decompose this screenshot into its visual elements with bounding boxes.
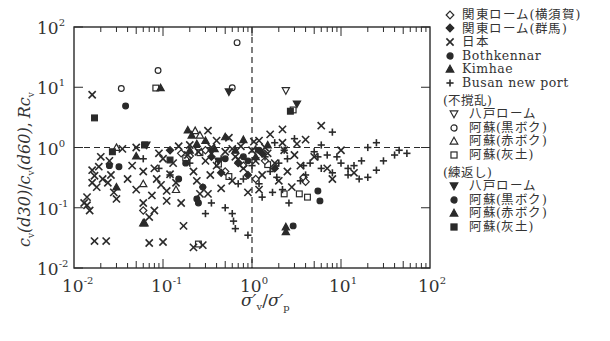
diamond-filled-marker-icon (443, 22, 457, 34)
data-point-x (329, 175, 336, 182)
legend-marker (450, 137, 458, 144)
legend-marker (451, 125, 457, 131)
data-point-x (107, 171, 114, 178)
data-point-plus (199, 184, 206, 191)
square-open-marker-icon (447, 149, 461, 161)
data-point-diamond-open (140, 207, 147, 214)
legend-marker (446, 11, 454, 19)
y-tick-label: 10-1 (37, 198, 68, 219)
legend-item: 八戸ローム (443, 107, 581, 121)
legend-item: 阿蘇(灰土) (443, 220, 581, 234)
data-point-square-filled (92, 115, 98, 121)
data-point-x (222, 148, 229, 155)
data-point-x (267, 131, 274, 138)
data-point-x (291, 151, 298, 158)
data-point-square-filled (288, 108, 294, 114)
data-point-plus (208, 199, 215, 206)
data-point-triangle-filled (240, 136, 247, 142)
data-point-x (140, 168, 147, 175)
data-point-circle-filled (245, 158, 251, 164)
data-point-plus (373, 167, 380, 174)
data-point-circle-filled (123, 103, 129, 109)
data-point-plus (285, 199, 292, 206)
data-point-plus (373, 139, 380, 146)
legend-label: Kimhae (462, 62, 513, 76)
data-point-plus (271, 139, 278, 146)
reference-lines (74, 27, 430, 268)
data-point-circle-filled (315, 188, 321, 194)
data-point-circle-filled (317, 198, 323, 204)
legend-label: 日本 (462, 35, 489, 49)
legend-item: 阿蘇(赤ボク) (443, 206, 581, 220)
data-point-plus (324, 151, 331, 158)
data-point-plus (140, 155, 147, 162)
triangle-down-open-marker-icon (447, 108, 461, 120)
legend-remolded-title: (練返し) (443, 166, 581, 180)
data-point-x (279, 139, 286, 146)
data-point-plus (403, 150, 410, 157)
data-point-plus (229, 210, 236, 217)
data-point-diamond-filled (208, 153, 215, 160)
data-point-x (148, 192, 155, 199)
legend-label: Bothkennar (462, 49, 541, 63)
legend-undisturbed-title: (不撹乱) (443, 94, 581, 108)
data-points (81, 40, 411, 251)
data-point-x (180, 222, 187, 229)
legend-item: 関東ローム(群馬) (443, 22, 581, 36)
data-point-plus (329, 129, 336, 136)
y-tick-label: 100 (37, 138, 65, 159)
data-point-x (204, 190, 211, 197)
data-point-x (93, 184, 100, 191)
data-point-circle-filled (290, 223, 296, 229)
data-point-x (151, 207, 158, 214)
data-point-x (318, 122, 325, 129)
legend-item: 阿蘇(黒ボク) (443, 193, 581, 207)
data-point-x (259, 171, 266, 178)
data-point-x (155, 150, 162, 157)
data-point-plus (333, 153, 340, 160)
data-point-x (196, 190, 203, 197)
legend-item: Kimhae (443, 62, 581, 76)
square-filled-marker-icon (447, 221, 461, 233)
circle-filled-marker-icon (443, 50, 457, 62)
legend-label: 阿蘇(灰土) (469, 220, 534, 234)
data-point-square-open (296, 191, 302, 197)
data-point-x (232, 153, 239, 160)
data-point-triangle-open (140, 180, 147, 186)
data-point-x (204, 127, 211, 134)
data-point-x (207, 171, 214, 178)
data-point-x (218, 185, 225, 192)
data-point-x (95, 163, 102, 170)
data-point-plus (364, 174, 371, 181)
data-point-diamond-filled (244, 171, 251, 178)
data-point-x (129, 162, 136, 169)
legend-item: Busan new port (443, 76, 581, 90)
data-point-x (163, 197, 170, 204)
data-point-x (103, 237, 110, 244)
data-point-plus (344, 171, 351, 178)
legend-label: 阿蘇(黒ボク) (469, 121, 547, 135)
y-tick-label: 101 (37, 77, 65, 98)
legend-item: 日本 (443, 35, 581, 49)
data-point-x (190, 168, 197, 175)
data-point-plus (202, 210, 209, 217)
data-point-x (213, 137, 220, 144)
legend-item: Bothkennar (443, 49, 581, 63)
data-point-plus (380, 157, 387, 164)
data-point-x (146, 239, 153, 246)
legend-main-group: 関東ローム(横須賀)関東ローム(群馬)日本BothkennarKimhaeBus… (443, 8, 581, 90)
data-point-x (146, 213, 153, 220)
x-tick-label: 10-1 (151, 275, 182, 296)
data-point-x (159, 238, 166, 245)
legend: 関東ローム(横須賀)関東ローム(群馬)日本BothkennarKimhaeBus… (443, 8, 581, 234)
data-point-diamond-open (252, 175, 259, 182)
x-axis-label: σ′v/σ′p (241, 290, 290, 313)
data-point-x (91, 237, 98, 244)
y-tick-label: 102 (37, 17, 65, 38)
data-point-plus (269, 189, 276, 196)
legend-item: 関東ローム(横須賀) (443, 8, 581, 22)
data-point-x (288, 184, 295, 191)
data-point-x (159, 155, 166, 162)
data-point-x (302, 136, 309, 143)
data-point-x (97, 153, 104, 160)
